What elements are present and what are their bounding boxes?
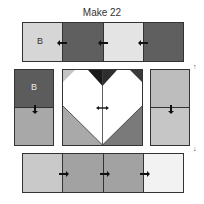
orientation-up-icon: ↑ <box>193 63 197 70</box>
press-arrow-right-icon <box>59 173 67 175</box>
press-arrow-left-icon <box>100 42 108 44</box>
right-segment-2 <box>151 108 189 145</box>
heart-block <box>62 69 143 146</box>
bottom-segment-4 <box>144 154 183 192</box>
top-strip: B <box>22 22 184 62</box>
press-arrow-down-icon <box>170 105 172 111</box>
bottom-strip <box>22 153 184 193</box>
left-segment-1: B <box>15 70 53 108</box>
press-arrow-left-icon <box>140 42 148 44</box>
bottom-segment-3 <box>104 154 144 192</box>
right-strip <box>150 69 190 146</box>
press-arrow-down-icon <box>34 105 36 111</box>
bottom-segment-2 <box>63 154 103 192</box>
press-arrow-right-icon <box>100 173 108 175</box>
diagram-title: Make 22 <box>0 7 204 18</box>
right-segment-1 <box>151 70 189 108</box>
bottom-segment-1 <box>23 154 63 192</box>
press-arrow-left-icon <box>59 42 67 44</box>
left-strip: B <box>14 69 54 146</box>
left-segment-2 <box>15 108 53 145</box>
heart-icon <box>63 70 142 145</box>
orientation-down-icon: ↓ <box>193 145 197 152</box>
press-arrow-right-icon <box>140 173 148 175</box>
segment-label: B <box>37 36 43 46</box>
segment-label: B <box>31 82 37 92</box>
top-segment-4 <box>144 23 183 61</box>
